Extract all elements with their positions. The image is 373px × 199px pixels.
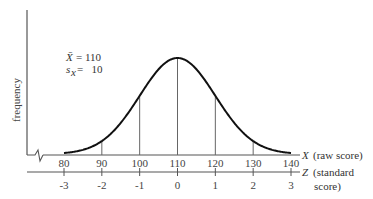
x-axis-symbol: X (301, 149, 310, 161)
z-tick-label: -1 (135, 179, 144, 191)
x-tick-label: 120 (207, 157, 224, 169)
x-tick-label: 110 (169, 157, 186, 169)
sd-annotation-value: = 10 (77, 63, 103, 75)
sd-annotation-subscript: x (70, 66, 76, 78)
x-tick-label: 80 (59, 157, 71, 169)
z-tick-label: 2 (250, 179, 256, 191)
z-axis-title-line1: (standard (313, 166, 354, 179)
z-tick-label: 1 (213, 179, 219, 191)
z-tick-label: 3 (288, 179, 294, 191)
y-axis-label: frequency (10, 78, 22, 122)
x-axis-title: (raw score) (313, 149, 363, 162)
z-axis-symbol: Z (302, 166, 309, 178)
x-tick-label: 130 (245, 157, 262, 169)
x-tick-label: 140 (283, 157, 300, 169)
sd-annotation-symbol: s (66, 63, 70, 75)
z-tick-label: -2 (97, 179, 106, 191)
z-axis-title-line2: score) (314, 180, 341, 193)
x-axis-break (27, 150, 43, 161)
mean-annotation-value: = 110 (76, 51, 102, 63)
normal-distribution-chart: frequency 8090100110120130140 -3-2-10123… (0, 0, 373, 199)
z-tick-label: 0 (175, 179, 181, 191)
x-tick-label: 90 (96, 157, 108, 169)
x-tick-label: 100 (131, 157, 148, 169)
z-tick-label: -3 (59, 179, 69, 191)
mean-annotation-symbol: X̄ (65, 51, 74, 63)
